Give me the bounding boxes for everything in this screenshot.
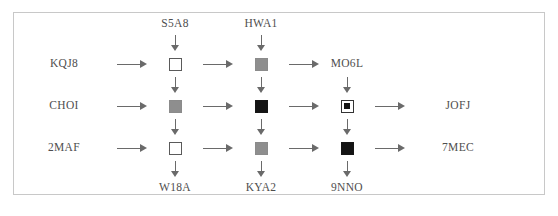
top-label-hwa1: HWA1 (244, 18, 277, 30)
grid-spacer (196, 119, 240, 135)
row-3-right-label-cell: 7MEC (412, 135, 504, 161)
grid-spacer (282, 119, 326, 135)
grid-spacer (368, 13, 412, 35)
right-label-7mec: 7MEC (442, 142, 474, 154)
grid-spacer (412, 77, 504, 93)
node-marker-black[interactable] (255, 100, 268, 113)
grid-spacer (196, 161, 240, 177)
right-label-mo6l: MO6L (331, 58, 364, 70)
node-marker-gray[interactable] (255, 58, 268, 71)
horizontal-arrow-cell (110, 51, 154, 77)
grid-spacer (282, 177, 326, 199)
arrow-down-icon (257, 119, 266, 135)
grid-spacer (412, 177, 504, 199)
vertical-arrow-cell (240, 35, 282, 51)
arrow-down-icon (257, 161, 266, 177)
grid-spacer (368, 119, 412, 135)
grid-spacer (110, 77, 154, 93)
node-cell-r2c1[interactable] (154, 93, 196, 119)
node-cell-r1c3-label: MO6L (326, 51, 368, 77)
grid-spacer (196, 77, 240, 93)
grid-spacer (18, 13, 110, 35)
horizontal-arrow-cell (368, 135, 412, 161)
arrow-right-icon (117, 102, 147, 111)
bottom-label-w18a: W18A (159, 182, 191, 194)
arrow-down-icon (343, 77, 352, 93)
node-marker-gray[interactable] (169, 100, 182, 113)
vertical-arrow-cell (240, 119, 282, 135)
vertical-arrow-cell (326, 77, 368, 93)
vertical-arrow-cell (154, 77, 196, 93)
top-label-cell-1: S5A8 (154, 13, 196, 35)
grid-spacer (18, 161, 110, 177)
arrow-right-icon (203, 60, 233, 69)
arrow-down-icon (343, 119, 352, 135)
bottom-label-cell-2: KYA2 (240, 177, 282, 199)
left-label-kqj8: KQJ8 (50, 58, 78, 70)
horizontal-arrow-cell (110, 135, 154, 161)
horizontal-arrow-cell (282, 135, 326, 161)
top-label-s5a8: S5A8 (161, 18, 188, 30)
horizontal-arrow-cell (282, 93, 326, 119)
node-marker-gray[interactable] (255, 142, 268, 155)
bottom-label-9nno: 9NNO (331, 182, 363, 194)
node-marker-nested[interactable] (341, 100, 354, 113)
arrow-down-icon (171, 35, 180, 51)
grid-spacer (196, 35, 240, 51)
horizontal-arrow-cell (196, 93, 240, 119)
grid-spacer (18, 119, 110, 135)
grid-spacer (412, 119, 504, 135)
grid-spacer (412, 161, 504, 177)
horizontal-arrow-cell (196, 51, 240, 77)
horizontal-arrow-cell (368, 93, 412, 119)
grid-spacer (282, 35, 326, 51)
arrow-down-icon (257, 77, 266, 93)
row-2-left-label-cell: CHOI (18, 93, 110, 119)
arrow-right-icon (289, 60, 319, 69)
arrow-right-icon (203, 144, 233, 153)
grid-spacer (110, 35, 154, 51)
grid-spacer (110, 119, 154, 135)
grid-spacer (368, 35, 412, 51)
node-cell-r3c3[interactable] (326, 135, 368, 161)
node-marker-open[interactable] (169, 142, 182, 155)
node-cell-r3c2[interactable] (240, 135, 282, 161)
node-cell-r3c1[interactable] (154, 135, 196, 161)
grid-spacer (282, 13, 326, 35)
node-cell-r1c1[interactable] (154, 51, 196, 77)
grid-spacer (412, 13, 504, 35)
node-cell-r2c2[interactable] (240, 93, 282, 119)
arrow-right-icon (203, 102, 233, 111)
arrow-down-icon (171, 77, 180, 93)
horizontal-arrow-cell (196, 135, 240, 161)
grid-spacer (368, 177, 412, 199)
vertical-arrow-cell (154, 161, 196, 177)
grid-spacer (18, 177, 110, 199)
vertical-arrow-cell (326, 119, 368, 135)
grid-spacer (368, 51, 412, 77)
arrow-right-icon (375, 102, 405, 111)
grid-spacer (196, 177, 240, 199)
node-marker-inner (344, 103, 350, 109)
grid-spacer (412, 35, 504, 51)
node-cell-r2c3[interactable] (326, 93, 368, 119)
arrow-down-icon (171, 161, 180, 177)
grid-spacer (196, 13, 240, 35)
bottom-label-kya2: KYA2 (246, 182, 277, 194)
node-cell-r1c2[interactable] (240, 51, 282, 77)
grid-spacer (110, 161, 154, 177)
grid-spacer (18, 77, 110, 93)
node-marker-open[interactable] (169, 58, 182, 71)
diagram-grid: S5A8 HWA1 (14, 13, 546, 196)
grid-spacer (368, 77, 412, 93)
grid-spacer (326, 13, 368, 35)
right-label-jofj: JOFJ (446, 100, 471, 112)
row-3-left-label-cell: 2MAF (18, 135, 110, 161)
arrow-right-icon (289, 144, 319, 153)
node-marker-black[interactable] (341, 142, 354, 155)
vertical-arrow-cell (154, 35, 196, 51)
arrow-right-icon (289, 102, 319, 111)
bottom-label-cell-3: 9NNO (326, 177, 368, 199)
figure-frame: S5A8 HWA1 (13, 12, 545, 195)
grid-spacer (326, 35, 368, 51)
